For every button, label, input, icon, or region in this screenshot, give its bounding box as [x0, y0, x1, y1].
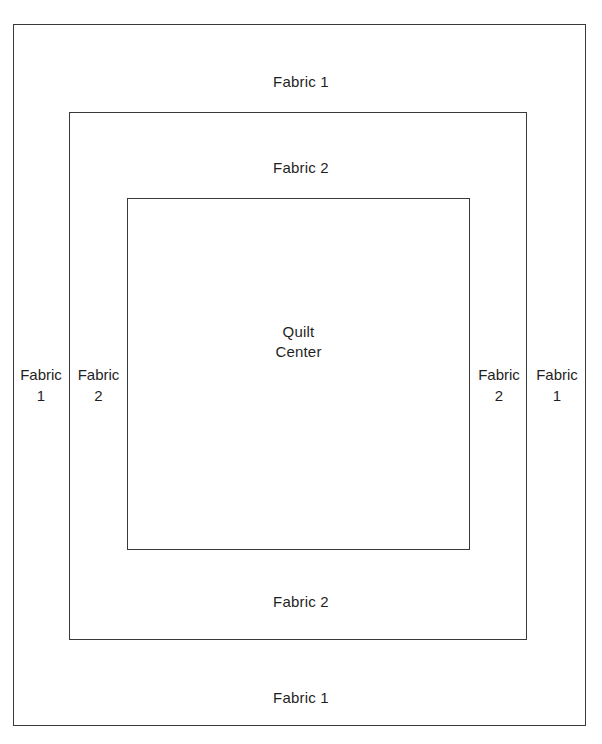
label-quilt-center: Quilt Center [127, 322, 470, 362]
label-right-fabric-1: Fabric 1 [528, 364, 586, 406]
label-right-fabric-2: Fabric 2 [471, 364, 527, 406]
label-left-fabric-2: Fabric 2 [70, 364, 127, 406]
label-left-fabric-1: Fabric 1 [13, 364, 69, 406]
label-top-fabric-1: Fabric 1 [0, 72, 602, 92]
label-bottom-fabric-1: Fabric 1 [0, 688, 602, 708]
label-top-fabric-2: Fabric 2 [0, 158, 602, 178]
quilt-border-diagram: Fabric 1 Fabric 2 Quilt Center Fabric 2 … [0, 0, 602, 744]
quilt-center-rectangle [127, 198, 470, 550]
label-bottom-fabric-2: Fabric 2 [0, 592, 602, 612]
